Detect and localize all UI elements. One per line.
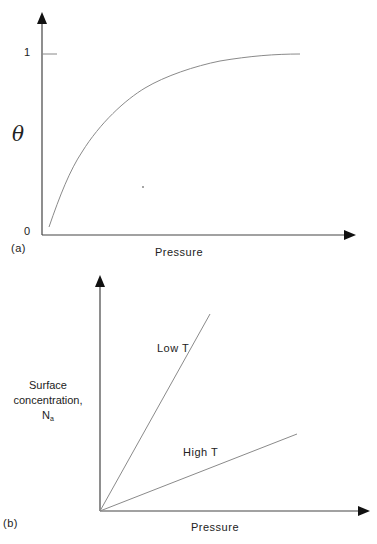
panel-b-y-label-subscript: a [50, 415, 54, 422]
panel-a-axes [37, 12, 356, 240]
panel-a-tick-label-1: 1 [24, 46, 31, 58]
panel-b-axes [95, 275, 370, 516]
panel-b-x-arrow-icon [358, 506, 370, 516]
panel-b-y-label-line2: concentration, [3, 393, 93, 408]
figure-canvas [0, 0, 377, 544]
panel-b-y-label-line1: Surface [3, 378, 93, 393]
panel-b-y-label-line3: Na [3, 408, 93, 426]
panel-b-y-arrow-icon [95, 275, 105, 287]
panel-b-low-t-label: Low T [157, 342, 189, 354]
panel-b-y-label-symbol: N [42, 409, 50, 421]
panel-b-y-axis-label: Surface concentration, Na [3, 378, 93, 426]
panel-a-y-arrow-icon [37, 12, 47, 24]
panel-a-tick-label-0: 0 [24, 225, 31, 237]
panel-a-x-arrow-icon [344, 230, 356, 240]
panel-b-panel-label: (b) [3, 517, 18, 529]
panel-a-y-axis-label: θ [12, 122, 24, 146]
panel-b-x-axis-label: Pressure [191, 521, 239, 533]
panel-a-isotherm-curve [49, 54, 300, 227]
panel-a-x-axis-label: Pressure [155, 246, 203, 258]
panel-a-stray-dot [142, 186, 144, 188]
panel-b-high-t-label: High T [183, 446, 218, 458]
panel-b-low-t-line [100, 314, 210, 511]
panel-a-panel-label: (a) [11, 242, 26, 254]
